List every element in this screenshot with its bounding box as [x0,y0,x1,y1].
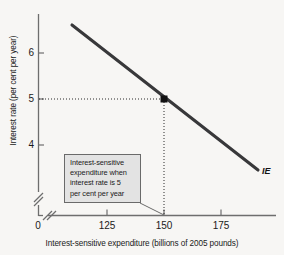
x-tick-label-175: 175 [201,220,241,231]
y-tick-label-6: 6 [20,47,34,58]
x-tick-label-125: 125 [87,220,127,231]
interest-sensitive-expenditure-chart: 6 5 4 0 125 150 175 Interest rate (per c… [0,0,284,255]
callout-line-2: expenditure when [70,168,136,178]
callout-line-1: Interest-sensitive [70,158,136,168]
callout-line-3: interest rate is 5 [70,178,136,188]
y-axis-break-mark [34,193,43,206]
equilibrium-marker [161,96,168,103]
interest-sensitive-expenditure-callout: Interest-sensitive expenditure when inte… [64,154,141,203]
ie-curve-label: IE [262,166,271,176]
y-axis-title: Interest rate (per cent per year) [9,16,18,166]
y-tick-label-5: 5 [20,93,34,104]
x-tick-label-150: 150 [144,220,184,231]
chart-plot-area [0,0,284,255]
callout-line-4: per cent per year [70,189,136,199]
x-axis-title: Interest-sensitive expenditure (billions… [0,239,284,248]
callout-leader-line [140,203,164,215]
y-tick-label-4: 4 [20,139,34,150]
x-tick-label-0: 0 [18,220,58,231]
